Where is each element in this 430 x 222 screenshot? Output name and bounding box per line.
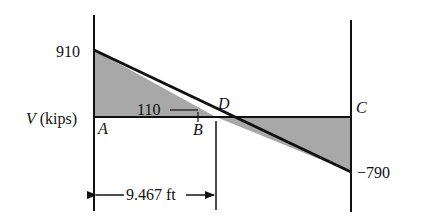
axis-label-var: V <box>26 110 38 127</box>
shear-force-diagram: 910 V(kips) 110 A B D C −790 9.467 ft <box>0 0 430 222</box>
axis-label: V(kips) <box>26 110 77 128</box>
b-value-label: 110 <box>137 101 160 118</box>
point-label-a: A <box>97 120 108 137</box>
point-label-b: B <box>193 121 203 138</box>
axis-label-unit: (kips) <box>40 110 77 128</box>
dimension-label: 9.467 ft <box>126 186 176 203</box>
end-value-label: −790 <box>357 164 390 181</box>
point-label-d: D <box>217 95 230 112</box>
point-label-c: C <box>356 99 367 116</box>
start-value-label: 910 <box>56 43 80 60</box>
